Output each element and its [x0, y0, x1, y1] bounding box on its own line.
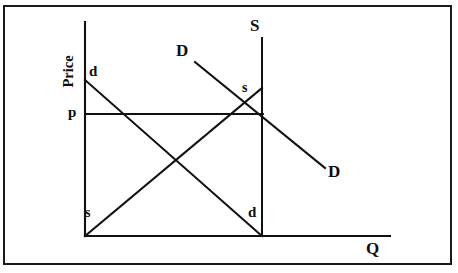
- demand-curve-lower-cap-label: D: [328, 163, 340, 180]
- y-axis-label: Price: [61, 55, 76, 87]
- demand-schedule-top-label: d: [89, 64, 97, 79]
- supply-demand-diagram-canvas: [0, 0, 458, 273]
- demand-schedule-bottom-label: d: [248, 205, 256, 220]
- supply-curve-cap-label: S: [250, 17, 259, 34]
- figure-root: Price Q S D D d p s s d: [0, 0, 458, 273]
- demand-curve-upper-cap-label: D: [176, 42, 188, 59]
- price-level-label: p: [68, 105, 76, 120]
- x-axis-label: Q: [366, 240, 379, 257]
- supply-schedule-top-label: s: [242, 81, 247, 95]
- supply-schedule-bottom-label: s: [85, 206, 90, 220]
- market-demand-line: [195, 62, 325, 168]
